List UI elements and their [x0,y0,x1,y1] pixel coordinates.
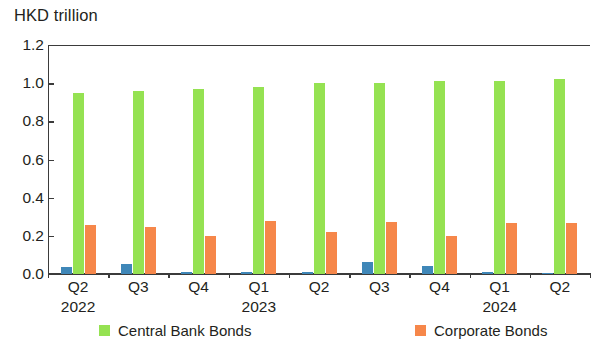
y-axis-tick-mark [48,236,54,237]
x-axis-tick-mark [530,273,531,278]
bar [506,223,517,274]
bar-group [61,45,96,274]
y-axis-tick-mark [48,83,54,84]
bar-group [302,45,337,274]
x-axis-quarter-label: Q4 [188,278,209,296]
y-axis-tick-mark [48,121,54,122]
bar-group [181,45,216,274]
bars-layer [48,45,590,274]
bar-group [241,45,276,274]
bar [494,81,505,274]
bar-group [362,45,397,274]
bar-group [422,45,457,274]
y-axis-tick-mark [48,160,54,161]
y-axis-tick-label: 0.8 [2,112,44,130]
bar [133,91,144,274]
x-axis-tick-mark [229,273,230,278]
legend-label: Central Bank Bonds [118,322,251,339]
bar-group [542,45,577,274]
x-axis-tick-mark [590,273,591,278]
x-axis-tick-mark [48,273,49,278]
bar [73,93,84,274]
x-axis-tick-mark [470,273,471,278]
bar [253,87,264,274]
y-axis-tick-label: 0.6 [2,151,44,169]
bar [566,223,577,274]
legend-color-swatch [99,325,110,336]
x-axis-year-label: 2022 [61,298,95,316]
x-axis: Q2Q3Q4Q1Q2Q3Q4Q1Q2202220232024 [48,273,590,323]
chart-legend: Central Bank BondsCorporate Bonds [0,322,598,344]
x-axis-quarter-label: Q3 [128,278,149,296]
y-axis-tick-label: 0.4 [2,189,44,207]
x-axis-tick-mark [349,273,350,278]
bar [326,232,337,274]
bar-group [121,45,156,274]
x-axis-year-label: 2023 [242,298,276,316]
bar [193,89,204,274]
x-axis-quarter-label: Q2 [68,278,89,296]
x-axis-tick-mark [289,273,290,278]
x-axis-year-label: 2024 [482,298,516,316]
x-axis-quarter-label: Q4 [429,278,450,296]
bar-group [482,45,517,274]
x-axis-tick-mark [108,273,109,278]
y-axis: 0.00.20.40.60.81.01.2 [0,0,44,346]
legend-label: Corporate Bonds [434,322,547,339]
bar [446,236,457,274]
bar [386,222,397,274]
y-axis-tick-label: 0.2 [2,227,44,245]
x-axis-quarter-label: Q1 [489,278,510,296]
legend-item[interactable]: Central Bank Bonds [99,322,251,339]
x-axis-quarter-label: Q2 [309,278,330,296]
y-axis-tick-mark [48,198,54,199]
y-axis-tick-label: 0.0 [2,265,44,283]
x-axis-quarter-label: Q2 [550,278,571,296]
bar [434,81,445,274]
bar [314,83,325,274]
bar [205,236,216,274]
x-axis-quarter-label: Q1 [248,278,269,296]
y-axis-tick-label: 1.0 [2,74,44,92]
bar [374,83,385,274]
legend-item[interactable]: Corporate Bonds [415,322,547,339]
bar [145,227,156,274]
bar [85,225,96,274]
bar [265,221,276,274]
x-axis-quarter-label: Q3 [369,278,390,296]
bar [554,79,565,274]
y-axis-tick-label: 1.2 [2,36,44,54]
legend-color-swatch [415,325,426,336]
x-axis-tick-mark [168,273,169,278]
x-axis-tick-mark [409,273,410,278]
